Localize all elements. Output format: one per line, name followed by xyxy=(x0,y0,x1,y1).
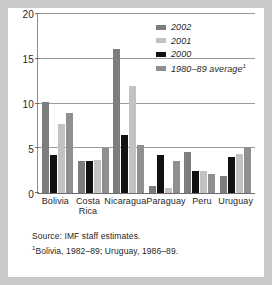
bar-group xyxy=(111,14,147,193)
bar xyxy=(42,102,49,193)
bar xyxy=(58,124,65,193)
bar xyxy=(78,161,85,193)
bar xyxy=(94,160,101,193)
legend-swatch-icon xyxy=(156,52,166,57)
legend-label: 2001 xyxy=(171,36,191,46)
legend-swatch-icon xyxy=(156,66,166,71)
bar xyxy=(184,152,191,193)
legend-footnote-marker: 1 xyxy=(243,63,246,69)
footnote: 1Bolivia, 1982–89; Uruguay, 1986–89. xyxy=(32,242,252,257)
bar xyxy=(192,171,199,193)
legend-label: 2002 xyxy=(171,22,191,32)
bar xyxy=(228,157,235,193)
bar xyxy=(173,161,180,193)
x-axis-label: Paraguay xyxy=(146,196,185,216)
bar xyxy=(113,49,120,193)
legend-item: 2001 xyxy=(156,36,246,46)
bar xyxy=(157,155,164,193)
legend-label: 2000 xyxy=(171,49,191,59)
y-axis: 05101520 xyxy=(12,14,36,210)
legend-swatch-icon xyxy=(156,25,166,30)
y-tick-label: 15 xyxy=(22,54,34,65)
chart-legend: 2002200120001980–89 average1 xyxy=(156,22,246,74)
bar xyxy=(129,86,136,193)
legend-swatch-icon xyxy=(156,38,166,43)
x-axis-label: Bolivia xyxy=(39,196,72,216)
x-axis-labels: BoliviaCosta RicaNicaraguaParaguayPeruUr… xyxy=(37,196,255,216)
source-note: Source: IMF staff estimates. xyxy=(32,230,252,242)
bar xyxy=(66,113,73,193)
legend-item: 1980–89 average1 xyxy=(156,63,246,74)
y-tick-label: 20 xyxy=(22,9,34,20)
bar xyxy=(102,148,109,193)
bar-group xyxy=(76,14,112,193)
bar xyxy=(121,135,128,193)
bar xyxy=(137,145,144,193)
legend-item: 2000 xyxy=(156,49,246,59)
bar xyxy=(220,176,227,193)
x-axis-label: Peru xyxy=(186,196,219,216)
y-tick-label: 0 xyxy=(28,189,34,200)
bar xyxy=(200,171,207,193)
y-tick-label: 5 xyxy=(28,144,34,155)
chart-notes: Source: IMF staff estimates. 1Bolivia, 1… xyxy=(32,230,252,257)
bar xyxy=(50,155,57,193)
chart-figure: 05101520 BoliviaCosta RicaNicaraguaParag… xyxy=(8,8,264,277)
y-tick-label: 10 xyxy=(22,99,34,110)
footnote-text: Bolivia, 1982–89; Uruguay, 1986–89. xyxy=(35,246,178,256)
bar xyxy=(208,174,215,193)
bar xyxy=(165,188,172,193)
legend-label: 1980–89 average1 xyxy=(171,63,246,74)
bar-group xyxy=(40,14,76,193)
bar xyxy=(244,147,251,193)
bar xyxy=(236,154,243,193)
x-axis-label: Nicaragua xyxy=(104,196,146,216)
bar xyxy=(86,161,93,193)
x-axis-label: Uruguay xyxy=(218,196,253,216)
bar xyxy=(149,186,156,193)
x-axis-label: Costa Rica xyxy=(72,196,105,216)
legend-item: 2002 xyxy=(156,22,246,32)
